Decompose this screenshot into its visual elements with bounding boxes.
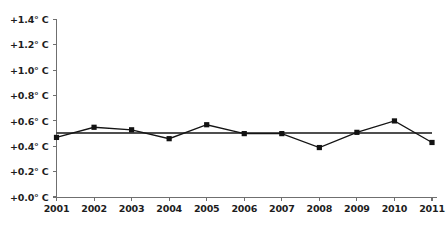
x-tick-label: 2007 [269, 203, 295, 214]
y-tick-label: +0.0° C [10, 192, 49, 203]
chart-background [0, 0, 448, 231]
data-point-marker-2008 [317, 145, 322, 150]
x-tick-label: 2011 [419, 203, 445, 214]
data-point-marker-2011 [429, 140, 434, 145]
data-point-marker-2003 [129, 127, 134, 132]
x-tick-label: 2004 [156, 203, 182, 214]
x-tick-label: 2002 [81, 203, 107, 214]
temperature-anomaly-line-chart: +0.0° C+0.2° C+0.4° C+0.6° C+0.8° C+1.0°… [0, 0, 448, 231]
data-point-marker-2010 [392, 118, 397, 123]
y-tick-label: +0.4° C [10, 141, 49, 152]
x-tick-label: 2006 [231, 203, 257, 214]
x-tick-label: 2010 [382, 203, 408, 214]
x-tick-label: 2009 [344, 203, 370, 214]
data-point-marker-2004 [167, 136, 172, 141]
y-tick-label: +0.8° C [10, 90, 49, 101]
x-tick-label: 2005 [194, 203, 220, 214]
y-tick-label: +0.2° C [10, 166, 49, 177]
y-tick-label: +0.6° C [10, 116, 49, 127]
data-point-marker-2006 [242, 131, 247, 136]
data-point-marker-2002 [91, 125, 96, 130]
data-point-marker-2005 [204, 122, 209, 127]
x-tick-label: 2003 [119, 203, 145, 214]
y-tick-label: +1.4° C [10, 14, 49, 25]
x-tick-label: 2001 [44, 203, 70, 214]
data-point-marker-2001 [54, 135, 59, 140]
y-tick-label: +1.2° C [10, 39, 49, 50]
data-point-marker-2007 [279, 131, 284, 136]
data-point-marker-2009 [354, 130, 359, 135]
y-tick-label: +1.0° C [10, 65, 49, 76]
x-tick-label: 2008 [307, 203, 333, 214]
x-axis-tick-labels: 2001200220032004200520062007200820092010… [44, 203, 445, 214]
chart-container: +0.0° C+0.2° C+0.4° C+0.6° C+0.8° C+1.0°… [0, 0, 448, 231]
